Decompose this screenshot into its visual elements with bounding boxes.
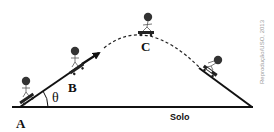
skater-landing xyxy=(201,56,222,79)
angle-arc xyxy=(43,91,48,107)
projectile-diagram: A B C θ Solo Reprodução/USO, 2013 xyxy=(0,0,274,132)
velocity-arrow xyxy=(82,53,99,64)
diagram-drawing xyxy=(0,0,274,132)
landing-ramp xyxy=(199,68,252,107)
dashed-trajectory xyxy=(104,35,200,68)
image-credit: Reprodução/USO, 2013 xyxy=(259,20,265,84)
label-point-b: B xyxy=(68,81,77,94)
skater-at-b xyxy=(69,47,86,77)
label-angle-theta: θ xyxy=(52,91,59,105)
label-point-c: C xyxy=(141,40,150,53)
label-ground: Solo xyxy=(170,113,190,122)
label-point-a: A xyxy=(16,117,25,130)
skater-at-c xyxy=(138,13,154,37)
